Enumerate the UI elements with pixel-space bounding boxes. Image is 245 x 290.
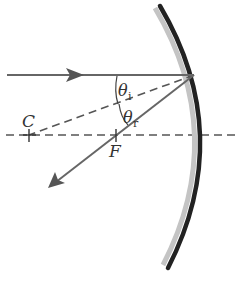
theta-r-label: θ — [123, 108, 133, 127]
theta-r-subscript: r — [133, 117, 139, 130]
theta-i-subscript: i — [128, 90, 132, 103]
mirror-diagram: C F θ i θ r — [0, 0, 245, 290]
theta-i-label: θ — [118, 81, 128, 100]
center-label: C — [22, 111, 35, 131]
diagram-svg: C F θ i θ r — [0, 0, 245, 290]
reflected-arrowhead-icon — [48, 172, 65, 188]
focal-label: F — [108, 141, 122, 161]
normal-line — [29, 75, 194, 135]
mirror-front-face — [155, 8, 195, 265]
